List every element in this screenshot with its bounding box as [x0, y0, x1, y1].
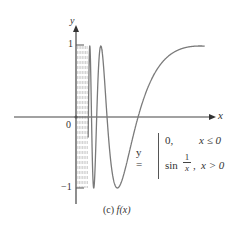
tick-label-pos-one: 1: [68, 39, 73, 49]
figure-caption: (c) f(x): [103, 204, 131, 215]
case1-value: 0,: [165, 134, 173, 146]
brace-icon: [158, 133, 164, 179]
tick-label-neg-one: −1: [61, 182, 72, 192]
case2-fraction: 1 x: [183, 152, 191, 173]
caption-function: f(x): [117, 204, 131, 215]
x-axis-arrow-icon: [209, 114, 216, 120]
function-plot: [0, 0, 230, 236]
origin-point: [75, 116, 78, 119]
case2-condition: x > 0: [201, 159, 224, 171]
x-axis-label: x: [218, 110, 223, 121]
y-axis-arrow-icon: [73, 25, 79, 32]
fraction-denominator: x: [183, 163, 191, 173]
y-axis-label: y: [70, 16, 74, 26]
caption-label: (c): [103, 204, 114, 215]
case2-func: sin: [165, 159, 178, 171]
origin-label: 0: [66, 120, 71, 130]
case2-comma: ,: [193, 159, 196, 171]
fraction-numerator: 1: [183, 152, 191, 163]
equation-lhs: y =: [136, 146, 142, 170]
case1-condition: x ≤ 0: [199, 134, 221, 146]
